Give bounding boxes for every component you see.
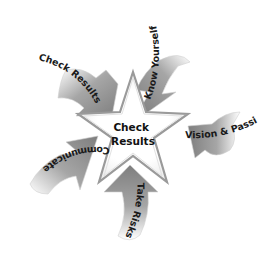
arrow-communicate xyxy=(30,136,98,194)
center-label-line1: Check xyxy=(113,121,150,133)
center-label-line2: Results xyxy=(111,135,155,147)
cycle-star-diagram: Check Results Know Yourself Vision & Pas… xyxy=(0,0,268,266)
